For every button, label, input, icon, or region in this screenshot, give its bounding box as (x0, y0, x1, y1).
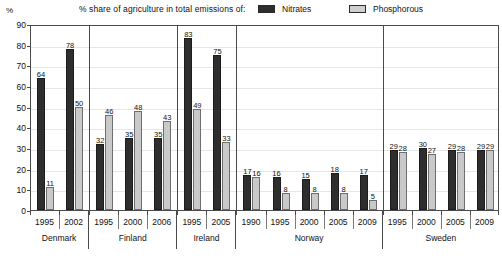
bar-phosphorous: 28 (457, 152, 465, 210)
legend-entry-nitrates: Nitrates (258, 4, 311, 14)
x-axis-year-label: 1995 (89, 216, 118, 229)
x-axis-country-label: Finland (89, 232, 176, 245)
legend-entry-phosphorous: Phosphorous (349, 4, 423, 14)
x-axis-country-label: Ireland (177, 232, 235, 245)
x-axis-year-label: 2000 (295, 216, 324, 229)
legend-label-nitrates: Nitrates (282, 4, 311, 14)
bar-phosphorous: 8 (311, 193, 319, 210)
bar-value-label: 5 (371, 192, 375, 201)
bar-nitrates: 16 (273, 177, 281, 210)
year-divider (118, 215, 119, 229)
x-axis-tick-mark (89, 211, 90, 215)
x-axis-year-label: 1995 (383, 216, 412, 229)
bar-value-label: 8 (283, 185, 287, 194)
bar-value-label: 29 (390, 142, 398, 151)
group-separator (236, 26, 237, 210)
x-axis-tick-mark (177, 211, 178, 215)
bar-phosphorous: 11 (46, 187, 54, 210)
year-divider (206, 215, 207, 229)
bar-value-label: 75 (213, 47, 221, 56)
bar-phosphorous: 33 (222, 142, 230, 210)
bar-phosphorous: 8 (340, 193, 348, 210)
bar-nitrates: 35 (125, 138, 133, 210)
bar-value-label: 32 (96, 136, 104, 145)
gridline (31, 88, 498, 89)
y-axis-tick-label: 0 (0, 206, 26, 216)
bar-phosphorous: 29 (486, 150, 494, 210)
y-axis-tick-label: 70 (0, 61, 26, 71)
bar-nitrates: 78 (66, 49, 74, 210)
bar-phosphorous: 8 (282, 193, 290, 210)
x-axis-year-label: 2009 (353, 216, 382, 229)
y-axis-tick-label: 80 (0, 41, 26, 51)
bar-value-label: 46 (105, 107, 113, 116)
bar-nitrates: 83 (184, 38, 192, 210)
x-axis-country-label: Norway (236, 232, 381, 245)
bar-value-label: 35 (154, 130, 162, 139)
legend-swatch-nitrates (258, 5, 275, 13)
y-axis-tick-label: 40 (0, 123, 26, 133)
x-axis-year-label: 1995 (177, 216, 206, 229)
group-separator (383, 26, 384, 210)
gridline (31, 109, 498, 110)
x-axis-year-label: 2002 (59, 216, 88, 229)
bar-phosphorous: 16 (252, 177, 260, 210)
x-axis-tick-mark (236, 211, 237, 215)
y-axis-tick-label: 60 (0, 82, 26, 92)
bar-nitrates: 18 (331, 173, 339, 210)
bar-value-label: 78 (66, 41, 74, 50)
bar-value-label: 30 (419, 140, 427, 149)
bar-nitrates: 35 (154, 138, 162, 210)
y-axis-tick-label: 50 (0, 103, 26, 113)
legend-label-phosphorous: Phosphorous (373, 4, 423, 14)
chart-legend: % share of agriculture in total emission… (0, 0, 502, 20)
bar-value-label: 8 (342, 185, 346, 194)
year-divider (470, 215, 471, 229)
y-axis-tick-label: 90 (0, 20, 26, 30)
legend-title: % share of agriculture in total emission… (79, 4, 246, 14)
bar-value-label: 16 (252, 169, 260, 178)
bar-value-label: 64 (37, 70, 45, 79)
year-divider (353, 215, 354, 229)
bar-value-label: 35 (125, 130, 133, 139)
bar-nitrates: 15 (302, 179, 310, 210)
x-axis-year-label: 2000 (118, 216, 147, 229)
bar-phosphorous: 50 (75, 107, 83, 210)
gridline (31, 47, 498, 48)
bar-phosphorous: 43 (163, 121, 171, 210)
x-axis-year-label: 2005 (441, 216, 470, 229)
bar-phosphorous: 5 (369, 200, 377, 210)
year-divider (266, 215, 267, 229)
bar-value-label: 48 (134, 103, 142, 112)
x-axis-tick-mark (30, 211, 31, 215)
bar-value-label: 29 (448, 142, 456, 151)
bar-phosphorous: 27 (428, 154, 436, 210)
x-axis-year-label: 1995 (266, 216, 295, 229)
bar-value-label: 50 (75, 99, 83, 108)
y-axis-unit: % (6, 6, 13, 15)
bar-nitrates: 30 (419, 148, 427, 210)
bar-value-label: 49 (193, 101, 201, 110)
year-divider (441, 215, 442, 229)
bar-phosphorous: 46 (105, 115, 113, 210)
bar-phosphorous: 48 (134, 111, 142, 210)
bar-value-label: 18 (330, 165, 338, 174)
year-divider (59, 215, 60, 229)
bar-value-label: 29 (486, 142, 494, 151)
bar-value-label: 83 (184, 30, 192, 39)
bar-nitrates: 29 (448, 150, 456, 210)
bar-value-label: 16 (272, 169, 280, 178)
bar-value-label: 28 (457, 144, 465, 153)
y-axis-tick-label: 10 (0, 185, 26, 195)
group-separator (89, 26, 90, 210)
bar-value-label: 43 (163, 113, 171, 122)
bar-value-label: 33 (222, 134, 230, 143)
x-axis-year-label: 2005 (206, 216, 235, 229)
bar-nitrates: 17 (360, 175, 368, 210)
legend-swatch-phosphorous (349, 5, 366, 13)
gridline (31, 67, 498, 68)
bar-nitrates: 29 (390, 150, 398, 210)
x-axis-tick-mark (498, 211, 499, 215)
bar-value-label: 28 (399, 144, 407, 153)
x-axis-year-label: 2009 (470, 216, 499, 229)
